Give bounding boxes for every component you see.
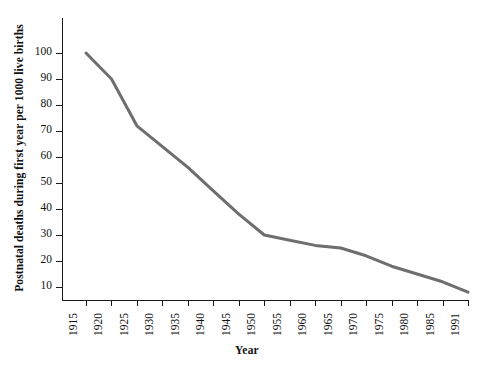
x-tick-mark: [468, 300, 469, 306]
x-tick-mark: [111, 300, 112, 306]
y-tick-mark: [56, 235, 62, 236]
x-tick-mark: [341, 300, 342, 306]
x-tick-mark: [86, 300, 87, 306]
y-tick-mark: [56, 53, 62, 54]
y-axis-line: [62, 18, 63, 301]
y-tick-label: 10: [18, 279, 52, 291]
y-tick-label: 70: [18, 123, 52, 135]
y-tick-label: 60: [18, 149, 52, 161]
y-tick-label: 30: [18, 227, 52, 239]
x-tick-mark: [188, 300, 189, 306]
y-tick-label: 80: [18, 97, 52, 109]
x-tick-mark: [213, 300, 214, 306]
x-tick-mark: [290, 300, 291, 306]
chart-figure: Postnatal deaths during first year per 1…: [0, 0, 494, 367]
x-tick-mark: [137, 300, 138, 306]
x-tick-mark: [264, 300, 265, 306]
x-tick-label: 1991: [448, 322, 488, 336]
y-tick-mark: [56, 261, 62, 262]
y-tick-mark: [56, 287, 62, 288]
y-tick-label: 50: [18, 175, 52, 187]
x-tick-mark: [392, 300, 393, 306]
y-tick-label: 40: [18, 201, 52, 213]
x-tick-mark: [443, 300, 444, 306]
y-tick-label: 90: [18, 71, 52, 83]
y-tick-mark: [56, 131, 62, 132]
x-tick-mark: [239, 300, 240, 306]
y-tick-label: 20: [18, 253, 52, 265]
y-tick-mark: [56, 209, 62, 210]
y-tick-mark: [56, 105, 62, 106]
x-tick-mark: [366, 300, 367, 306]
x-tick-mark: [417, 300, 418, 306]
x-tick-mark: [162, 300, 163, 306]
y-tick-label: 100: [18, 45, 52, 57]
x-axis-line: [62, 300, 469, 301]
plot-area: [62, 18, 468, 300]
y-tick-mark: [56, 79, 62, 80]
x-axis-title: Year: [0, 344, 494, 356]
y-tick-mark: [56, 183, 62, 184]
y-tick-mark: [56, 157, 62, 158]
x-tick-mark: [315, 300, 316, 306]
